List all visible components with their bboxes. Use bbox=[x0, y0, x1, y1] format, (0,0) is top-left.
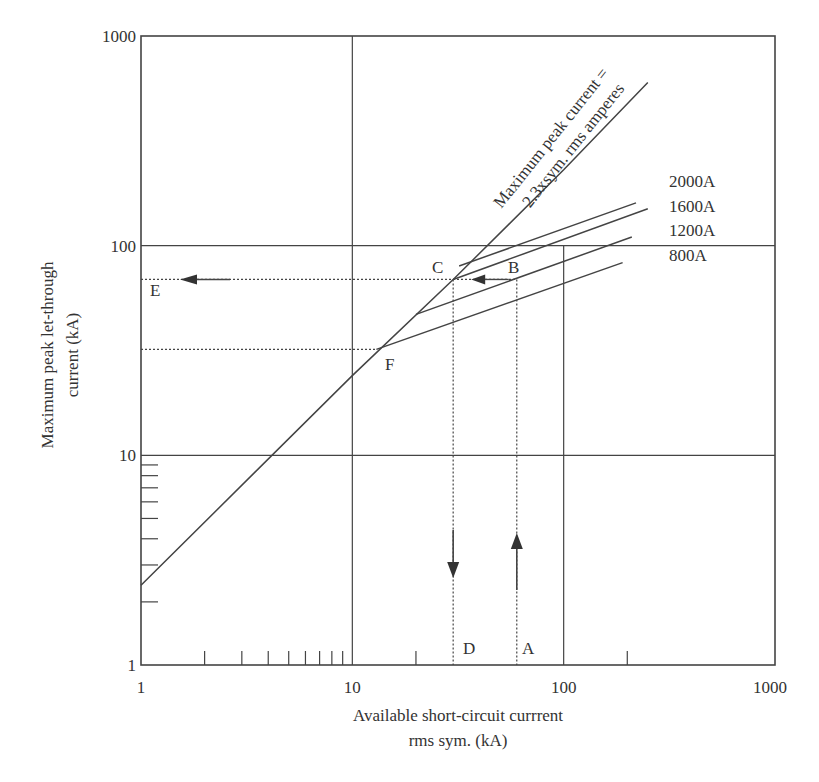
y-tick-label: 100 bbox=[111, 237, 137, 256]
point-label-B: B bbox=[508, 258, 519, 277]
x-tick-label: 100 bbox=[551, 678, 577, 697]
y-tick-label: 10 bbox=[119, 446, 136, 465]
point-label-C: C bbox=[432, 258, 443, 277]
rating-label: 800A bbox=[669, 246, 708, 265]
x-tick-label: 10 bbox=[344, 678, 361, 697]
plot-frame bbox=[141, 36, 775, 665]
point-label-F: F bbox=[385, 355, 394, 374]
arrow-up-icon-A bbox=[511, 533, 523, 549]
x-tick-label: 1000 bbox=[753, 678, 787, 697]
point-label-D: D bbox=[463, 639, 475, 658]
series-line-3 bbox=[416, 237, 632, 314]
svg-text:Maximum peak let-through: Maximum peak let-through bbox=[38, 261, 57, 448]
guide-lines bbox=[141, 274, 523, 665]
x-tick-label: 1 bbox=[137, 678, 146, 697]
y-axis-label: Maximum peak let-throughcurrent (kA) bbox=[38, 261, 82, 448]
point-label-E: E bbox=[150, 281, 160, 300]
series-line-1 bbox=[459, 203, 636, 266]
svg-text:current (kA): current (kA) bbox=[63, 313, 82, 398]
y-tick-label: 1000 bbox=[102, 27, 136, 46]
series-line-4 bbox=[376, 263, 622, 350]
series-line-2 bbox=[453, 209, 648, 280]
minor-ticks bbox=[141, 465, 627, 665]
y-tick-label: 1 bbox=[128, 656, 137, 675]
x-axis-label: rms sym. (kA) bbox=[409, 731, 508, 750]
rating-label: 1200A bbox=[669, 221, 716, 240]
rating-label: 1600A bbox=[669, 197, 716, 216]
chart: 11010010001101001000Available short-circ… bbox=[0, 0, 819, 782]
point-label-A: A bbox=[522, 639, 535, 658]
x-axis-label: Available short-circuit currrent bbox=[353, 706, 563, 725]
arrow-left-icon-E bbox=[180, 274, 197, 284]
arrow-left-icon-CB bbox=[471, 274, 485, 284]
labels: 11010010001101001000Available short-circ… bbox=[38, 27, 787, 750]
max-peak-line-label: Maximum peak current =2.3xsym. rms amper… bbox=[490, 64, 630, 225]
rating-label: 2000A bbox=[669, 172, 716, 191]
arrow-down-icon-D bbox=[447, 562, 459, 578]
grid-lines bbox=[141, 36, 775, 665]
